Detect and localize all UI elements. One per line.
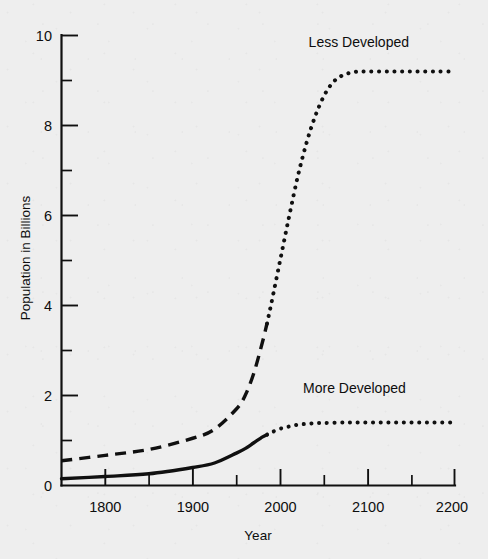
less-developed-projected-line	[267, 71, 455, 323]
x-tick-label-1900: 1900	[177, 499, 209, 515]
x-axis-title: Year	[244, 528, 272, 543]
series-less-developed	[62, 71, 456, 460]
y-tick-label-4: 4	[44, 298, 52, 314]
x-tick-label-2100: 2100	[352, 499, 384, 515]
more-developed-historical-line	[62, 435, 267, 479]
less-developed-historical-line	[62, 324, 267, 461]
chart-plot-area: 10 8 6 4 2 0 1800 1900 2000 2100 2200 Ye…	[0, 0, 488, 559]
y-tick-label-2: 2	[44, 388, 52, 404]
x-tick-label-2200: 2200	[436, 499, 468, 515]
series-annotation-more-developed: More Developed	[303, 380, 406, 396]
y-axis-minor-ticks	[62, 81, 73, 441]
x-tick-label-1800: 1800	[89, 499, 121, 515]
y-tick-label-8: 8	[44, 118, 52, 134]
population-projection-chart: 10 8 6 4 2 0 1800 1900 2000 2100 2200 Ye…	[0, 0, 488, 559]
series-annotation-less-developed: Less Developed	[309, 34, 409, 50]
y-axis-major-ticks	[62, 36, 79, 396]
y-tick-label-10: 10	[36, 28, 52, 44]
y-axis-title: Population in Billions	[18, 195, 33, 320]
series-more-developed	[62, 422, 456, 478]
y-tick-label-0: 0	[44, 478, 52, 494]
more-developed-projected-line	[267, 422, 455, 434]
x-tick-label-2000: 2000	[264, 499, 296, 515]
y-tick-label-6: 6	[44, 208, 52, 224]
